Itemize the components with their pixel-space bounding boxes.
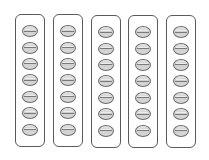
bead-icon (98, 59, 114, 71)
bead-icon (135, 92, 151, 104)
bead-icon (22, 124, 38, 136)
bead-icon (135, 75, 151, 87)
bead-icon (98, 43, 114, 55)
bead-icon (98, 75, 114, 87)
bead-icon (60, 91, 76, 103)
bead-icon (22, 58, 38, 70)
bead-icon (173, 108, 189, 120)
bead-icon (60, 42, 76, 54)
bead-icon (22, 25, 38, 37)
bead-icon (135, 59, 151, 71)
strip-1 (15, 14, 45, 147)
strip-5 (166, 15, 196, 148)
bead-icon (22, 91, 38, 103)
bead-icon (22, 74, 38, 86)
bead-icon (60, 107, 76, 119)
bead-icon (98, 108, 114, 120)
bead-icon (22, 107, 38, 119)
bead-icon (173, 43, 189, 55)
bead-icon (173, 75, 189, 87)
bead-icon (98, 125, 114, 137)
bead-icon (135, 26, 151, 38)
bead-icon (173, 59, 189, 71)
bead-icon (60, 74, 76, 86)
bead-icon (135, 43, 151, 55)
bead-icon (135, 108, 151, 120)
strip-4 (128, 15, 158, 148)
bead-icon (60, 58, 76, 70)
bead-icon (98, 92, 114, 104)
bead-icon (22, 42, 38, 54)
bead-icon (60, 25, 76, 37)
bead-icon (173, 92, 189, 104)
bead-icon (98, 26, 114, 38)
strip-2 (53, 14, 83, 147)
bead-icon (135, 125, 151, 137)
bead-icon (173, 125, 189, 137)
strip-3 (91, 15, 121, 148)
bead-icon (173, 26, 189, 38)
bead-icon (60, 124, 76, 136)
